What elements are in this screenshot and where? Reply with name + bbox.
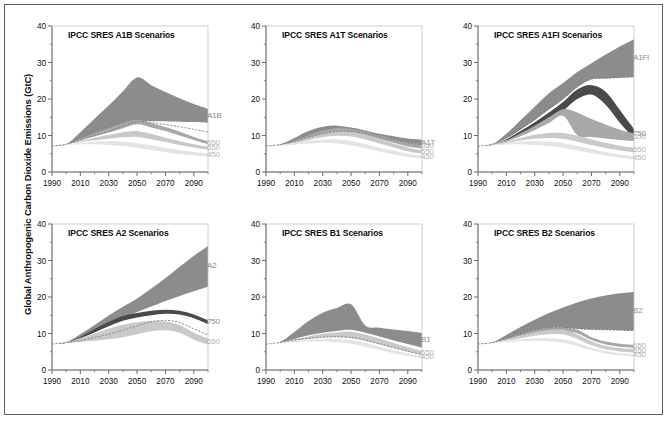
svg-text:2090: 2090 <box>611 179 630 188</box>
svg-text:30: 30 <box>463 59 473 68</box>
series-label-a1b: A1B <box>207 111 222 120</box>
svg-text:40: 40 <box>463 220 473 229</box>
svg-text:0: 0 <box>255 168 260 177</box>
svg-text:30: 30 <box>37 257 47 266</box>
svg-text:0: 0 <box>41 366 46 375</box>
svg-text:2070: 2070 <box>370 377 389 386</box>
svg-text:30: 30 <box>463 257 473 266</box>
right-labels-a1b: A1B650550450 <box>207 14 237 206</box>
panel-a2: 010203040199020102030205020702090 IPCC S… <box>26 212 234 404</box>
svg-text:2090: 2090 <box>611 377 630 386</box>
svg-text:2010: 2010 <box>71 179 90 188</box>
svg-text:30: 30 <box>251 59 261 68</box>
svg-text:30: 30 <box>37 59 47 68</box>
svg-text:1990: 1990 <box>43 179 62 188</box>
figure-root: Global Anthropogenic Carbon Dioxide Emis… <box>0 0 668 431</box>
plot-svg-b1: 010203040199020102030205020702090 <box>240 212 448 404</box>
svg-text:20: 20 <box>463 95 473 104</box>
svg-text:30: 30 <box>251 257 261 266</box>
svg-text:10: 10 <box>37 330 47 339</box>
plot-svg-a1fi: 010203040199020102030205020702090 <box>452 14 660 206</box>
svg-text:40: 40 <box>251 22 261 31</box>
svg-text:2010: 2010 <box>285 377 304 386</box>
svg-text:20: 20 <box>463 293 473 302</box>
svg-text:0: 0 <box>255 366 260 375</box>
panel-title-a1b: IPCC SRES A1B Scenarios <box>68 30 175 40</box>
svg-text:1990: 1990 <box>257 179 276 188</box>
series-label-450: 450 <box>421 352 434 361</box>
svg-text:2030: 2030 <box>100 179 119 188</box>
svg-text:2030: 2030 <box>314 179 333 188</box>
panel-b1: 010203040199020102030205020702090 IPCC S… <box>240 212 448 404</box>
svg-text:2010: 2010 <box>497 377 516 386</box>
panel-a1b: 010203040199020102030205020702090 IPCC S… <box>26 14 234 206</box>
svg-text:10: 10 <box>251 330 261 339</box>
svg-text:40: 40 <box>463 22 473 31</box>
series-label-450: 450 <box>421 152 434 161</box>
svg-text:40: 40 <box>37 22 47 31</box>
plot-area-a1b: 010203040199020102030205020702090 <box>26 14 234 206</box>
svg-text:10: 10 <box>37 132 47 141</box>
series-label-450: 450 <box>633 153 646 162</box>
panel-a1fi: 010203040199020102030205020702090 IPCC S… <box>452 14 660 206</box>
svg-text:2050: 2050 <box>342 377 361 386</box>
svg-text:2090: 2090 <box>399 377 418 386</box>
series-label-450: 450 <box>207 150 220 159</box>
svg-text:1990: 1990 <box>469 377 488 386</box>
svg-text:2050: 2050 <box>554 179 573 188</box>
svg-text:2030: 2030 <box>314 377 333 386</box>
panel-grid: 010203040199020102030205020702090 IPCC S… <box>22 10 662 410</box>
svg-text:2090: 2090 <box>185 179 204 188</box>
svg-text:1990: 1990 <box>43 377 62 386</box>
svg-text:10: 10 <box>463 330 473 339</box>
svg-text:2090: 2090 <box>399 179 418 188</box>
svg-text:2030: 2030 <box>100 377 119 386</box>
svg-text:0: 0 <box>467 366 472 375</box>
svg-text:2050: 2050 <box>128 179 147 188</box>
svg-text:20: 20 <box>37 95 47 104</box>
plot-area-a1t: 010203040199020102030205020702090 <box>240 14 448 206</box>
series-label-750: 750 <box>207 317 220 326</box>
panel-a1t: 010203040199020102030205020702090 IPCC S… <box>240 14 448 206</box>
series-label-b2: B2 <box>633 306 642 315</box>
plot-area-a1fi: 010203040199020102030205020702090 <box>452 14 660 206</box>
plot-svg-a1b: 010203040199020102030205020702090 <box>26 14 234 206</box>
svg-text:2010: 2010 <box>71 377 90 386</box>
right-labels-b1: B1550450 <box>421 212 451 404</box>
svg-text:1990: 1990 <box>257 377 276 386</box>
right-labels-a2: A2750650 <box>207 212 237 404</box>
plot-area-b2: 010203040199020102030205020702090 <box>452 212 660 404</box>
series-label-650: 650 <box>633 132 646 141</box>
svg-text:40: 40 <box>37 220 47 229</box>
panel-title-a1fi: IPCC SRES A1FI Scenarios <box>494 30 602 40</box>
svg-text:10: 10 <box>463 132 473 141</box>
series-label-650: 650 <box>207 337 220 346</box>
plot-area-a2: 010203040199020102030205020702090 <box>26 212 234 404</box>
svg-text:2030: 2030 <box>526 377 545 386</box>
panel-title-a2: IPCC SRES A2 Scenarios <box>68 228 169 238</box>
svg-text:2050: 2050 <box>128 377 147 386</box>
plot-area-b1: 010203040199020102030205020702090 <box>240 212 448 404</box>
svg-text:40: 40 <box>251 220 261 229</box>
series-label-450: 450 <box>633 350 646 359</box>
plot-svg-b2: 010203040199020102030205020702090 <box>452 212 660 404</box>
svg-text:2050: 2050 <box>342 179 361 188</box>
svg-text:20: 20 <box>251 293 261 302</box>
svg-text:10: 10 <box>251 132 261 141</box>
right-labels-b2: B2650550450 <box>633 212 663 404</box>
svg-text:2010: 2010 <box>285 179 304 188</box>
svg-text:0: 0 <box>41 168 46 177</box>
panel-title-a1t: IPCC SRES A1T Scenarios <box>282 30 388 40</box>
svg-text:20: 20 <box>251 95 261 104</box>
svg-text:0: 0 <box>467 168 472 177</box>
svg-text:2070: 2070 <box>582 179 601 188</box>
series-label-a2: A2 <box>207 261 216 270</box>
svg-text:1990: 1990 <box>469 179 488 188</box>
svg-text:2050: 2050 <box>554 377 573 386</box>
panel-title-b1: IPCC SRES B1 Scenarios <box>282 228 383 238</box>
svg-text:2070: 2070 <box>370 179 389 188</box>
svg-text:2070: 2070 <box>582 377 601 386</box>
svg-text:2090: 2090 <box>185 377 204 386</box>
right-labels-a1fi: A1FI750650550450 <box>633 14 663 206</box>
panel-b2: 010203040199020102030205020702090 IPCC S… <box>452 212 660 404</box>
